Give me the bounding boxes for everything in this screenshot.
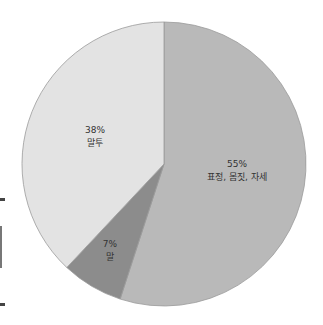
- left-edge-mark-bottom: [0, 303, 5, 306]
- slice-7-percent: 7%: [103, 238, 117, 251]
- slice-55-name: 표정, 몸짓, 자세: [207, 171, 266, 184]
- slice-label-7: 7% 말: [103, 238, 117, 264]
- slice-55-percent: 55%: [207, 158, 266, 171]
- slice-38-name: 말투: [85, 137, 105, 150]
- left-edge-mark-top: [0, 198, 5, 201]
- slice-7-name: 말: [103, 251, 117, 264]
- slice-label-38: 38% 말투: [85, 124, 105, 150]
- left-edge-text-fragment: [0, 226, 2, 268]
- slice-label-55: 55% 표정, 몸짓, 자세: [207, 158, 266, 184]
- pie-chart: [0, 0, 323, 325]
- slice-38-percent: 38%: [85, 124, 105, 137]
